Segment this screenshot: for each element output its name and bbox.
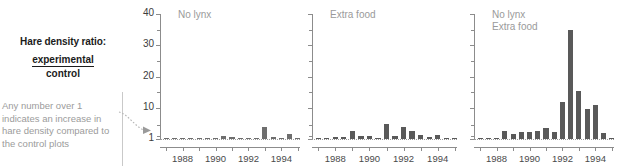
x-tick	[166, 147, 167, 151]
x-tick	[199, 147, 200, 151]
y-tick	[156, 77, 161, 78]
x-tick	[183, 147, 184, 151]
bar	[494, 138, 499, 139]
bar	[295, 138, 300, 139]
bar	[519, 132, 524, 139]
y-tick	[308, 108, 313, 109]
x-tick	[421, 147, 422, 151]
bar	[180, 138, 185, 139]
x-tick	[612, 147, 613, 151]
bar	[427, 137, 432, 139]
y-tick	[471, 136, 475, 137]
x-tick	[387, 147, 388, 151]
x-axis-label: 1992	[546, 153, 578, 164]
x-tick	[562, 147, 563, 151]
bar	[560, 102, 565, 140]
x-axis-label: 1988	[167, 153, 199, 164]
bar	[444, 138, 449, 139]
caption-title: Hare density ratio:	[0, 36, 126, 47]
caption-numerator: experimental	[32, 54, 94, 67]
y-axis-label: 10	[126, 101, 154, 112]
y-tick	[156, 45, 161, 46]
bar	[392, 136, 397, 139]
x-tick	[579, 147, 580, 151]
bar	[609, 138, 614, 139]
bar	[511, 134, 516, 139]
panel-title-no-lynx: No lynx	[178, 9, 211, 21]
bar	[552, 132, 557, 139]
panel-title-no-lynx-extra-food: No lynx Extra food	[492, 9, 538, 32]
bar	[324, 138, 329, 139]
bar	[384, 124, 389, 139]
bar	[527, 132, 532, 139]
x-tick	[404, 147, 405, 151]
y-tick	[308, 77, 313, 78]
chart-figure: Hare density ratio: experimental control…	[0, 0, 620, 168]
y-axis-label: 20	[126, 70, 154, 81]
caption-ratio: experimental control	[0, 54, 126, 79]
y-tick	[309, 125, 313, 126]
x-tick	[438, 147, 439, 151]
bar	[238, 138, 243, 139]
caption-block: Hare density ratio: experimental control…	[0, 0, 128, 168]
x-tick	[248, 147, 249, 151]
bar	[246, 138, 251, 139]
x-tick	[298, 147, 299, 151]
caption-note: Any number over 1 indicates an increase …	[2, 100, 122, 150]
bar	[375, 138, 380, 139]
caption-denominator: control	[0, 68, 126, 79]
x-tick	[281, 147, 282, 151]
x-axis-label: 1992	[232, 153, 264, 164]
bar	[164, 138, 169, 139]
y-tick	[157, 92, 161, 93]
x-tick	[232, 147, 233, 151]
bar	[229, 137, 234, 139]
bar	[401, 127, 406, 140]
bar	[593, 105, 598, 139]
y-axis-label: 30	[126, 38, 154, 49]
y-tick	[471, 30, 475, 31]
baseline-ratio-one	[160, 139, 300, 140]
bar	[262, 127, 267, 139]
x-axis-line	[160, 147, 300, 148]
y-tick	[309, 92, 313, 93]
baseline-ratio-one	[312, 139, 457, 140]
x-tick	[480, 147, 481, 151]
bar	[333, 137, 338, 139]
bar	[535, 131, 540, 139]
x-axis-line	[474, 147, 614, 148]
x-axis-label: 1988	[481, 153, 513, 164]
bar	[452, 138, 457, 139]
x-tick	[513, 147, 514, 151]
bar	[502, 131, 507, 139]
x-tick	[455, 147, 456, 151]
y-tick	[309, 30, 313, 31]
bar	[221, 136, 226, 139]
panel-title-extra-food: Extra food	[330, 9, 376, 21]
y-tick	[309, 136, 313, 137]
x-tick	[497, 147, 498, 151]
x-axis-label: 1988	[319, 153, 351, 164]
bar	[576, 91, 581, 139]
bar	[197, 138, 202, 139]
x-tick	[318, 147, 319, 151]
bar	[350, 131, 355, 139]
y-tick	[470, 108, 475, 109]
y-tick	[156, 14, 161, 15]
bar	[287, 134, 292, 139]
chart-panel-no-lynx-extra-food: No lynx Extra food1988199019921994	[474, 0, 620, 168]
y-tick	[470, 14, 475, 15]
bar	[358, 136, 363, 139]
bar	[172, 138, 177, 139]
x-tick	[352, 147, 353, 151]
y-tick	[157, 125, 161, 126]
x-axis-label: 1990	[353, 153, 385, 164]
y-tick	[471, 125, 475, 126]
x-axis-label: 1990	[514, 153, 546, 164]
bar	[601, 133, 606, 139]
y-tick	[471, 92, 475, 93]
y-tick	[308, 45, 313, 46]
x-tick	[265, 147, 266, 151]
x-axis-line	[312, 147, 457, 148]
x-axis-label: 1994	[265, 153, 297, 164]
